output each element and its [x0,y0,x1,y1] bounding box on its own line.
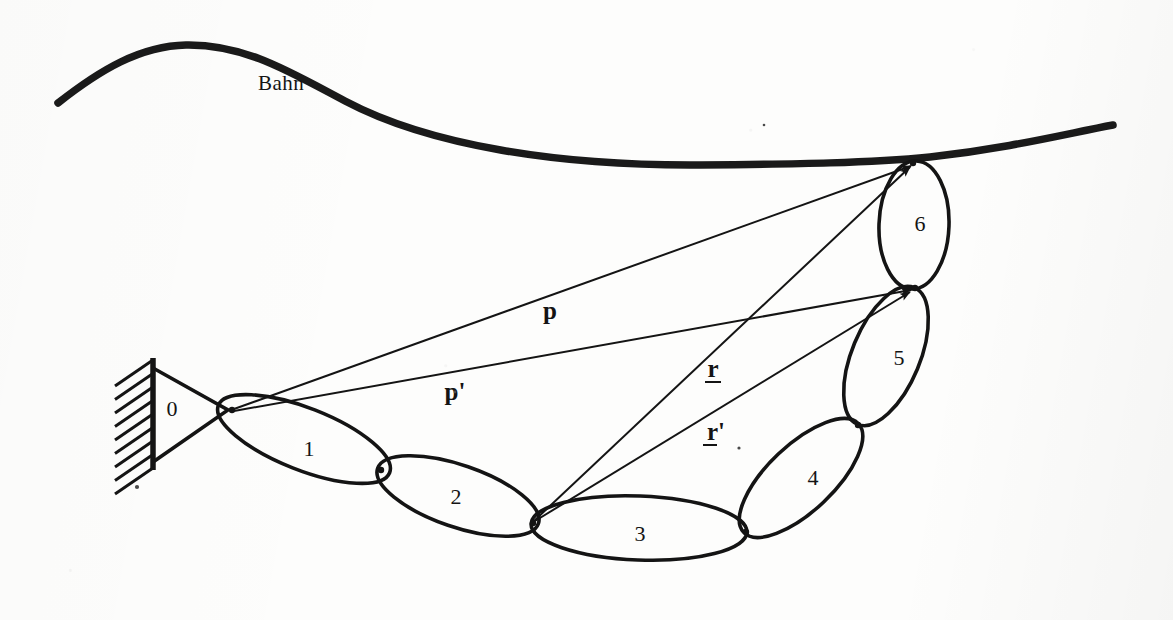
hatch-line-1 [115,374,153,400]
hatch-line-6 [115,441,153,467]
joint-1-2 [378,467,384,473]
hatch-line-5 [115,428,153,454]
hatch-line-8 [115,468,153,494]
ground-hatching [115,360,153,494]
mechanism-diagram: Bahn 0123456 pp'rr' [0,0,1173,620]
vector-r-prime [535,292,910,521]
figure-canvas: Bahn 0123456 pp'rr' [0,0,1173,620]
joint-4-5 [855,422,861,428]
vector-p [234,166,911,409]
hatch-line-7 [115,455,153,481]
link-label-0: 0 [167,396,178,421]
link-label-5: 5 [894,345,905,370]
link-label-3: 3 [635,521,646,546]
hatch-line-4 [115,414,153,440]
joint-3-4 [743,529,749,535]
link-body-5 [826,275,945,438]
fixed-support-group [115,358,228,494]
joint-6-path [910,160,916,166]
link-label-6: 6 [915,211,926,236]
vector-p-label: p [543,297,557,324]
vector-r-label: r [707,355,718,382]
link-label-1: 1 [304,436,315,461]
hatch-line-0 [115,360,153,386]
vector-r-prime-label: r' [707,418,725,445]
hatch-line-3 [115,401,153,427]
vector-p-prime [234,290,911,411]
link-label-2: 2 [451,484,462,509]
paper-specks [135,124,765,489]
link-label-4: 4 [808,465,819,490]
path-curve [58,45,1113,165]
joint-5-6 [912,285,918,291]
path-curve-group: Bahn [58,45,1113,165]
link-bodies [207,160,951,564]
link-number-labels: 0123456 [167,211,926,546]
hatch-line-2 [115,387,153,413]
curve-label-bahn: Bahn [258,71,304,95]
